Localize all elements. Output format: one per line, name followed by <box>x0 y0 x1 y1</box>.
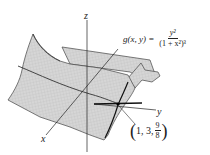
point-z-numerator: 9 <box>155 121 161 131</box>
highlighted-point <box>116 102 119 105</box>
point-z-denominator: 8 <box>156 131 160 140</box>
x-axis-label: x <box>41 134 45 144</box>
formula-lhs: g(x, y) = <box>123 34 154 44</box>
close-paren: ) <box>162 122 168 140</box>
surface-plot <box>0 0 210 155</box>
point-z-fraction: 9 8 <box>155 121 161 140</box>
point-label: ( 1, 3, 9 8 ) <box>130 121 168 140</box>
function-formula: g(x, y) = y² (1 + x²)³ <box>123 28 186 49</box>
y-axis-label: y <box>157 107 161 117</box>
formula-fraction: y² (1 + x²)³ <box>159 28 186 49</box>
z-axis-label: z <box>84 11 88 21</box>
formula-denominator: (1 + x²)³ <box>159 39 186 49</box>
formula-numerator: y² <box>168 28 178 39</box>
point-coords: 1, 3, <box>136 125 154 136</box>
